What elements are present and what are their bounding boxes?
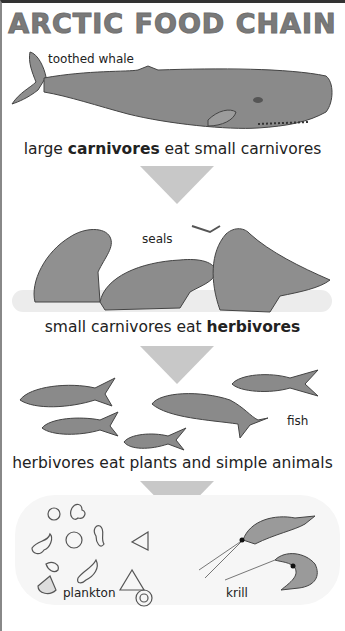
- label-seals: seals: [142, 232, 173, 246]
- page-title: ARCTIC FOOD CHAIN: [0, 8, 345, 39]
- seals-illustration: [30, 222, 340, 317]
- caption-level-2: small carnivores eat herbivores: [0, 318, 345, 336]
- caption-level-1: large carnivores eat small carnivores: [0, 140, 345, 158]
- caption-bold: carnivores: [68, 140, 160, 158]
- caption-text: large: [24, 140, 68, 158]
- label-krill: krill: [226, 586, 248, 600]
- krill-illustration: [195, 500, 335, 600]
- caption-text: eat small carnivores: [160, 140, 322, 158]
- caption-text: herbivores eat plants and simple animals: [12, 454, 332, 472]
- label-fish: fish: [287, 414, 308, 428]
- caption-text: small carnivores eat: [45, 318, 207, 336]
- label-plankton: plankton: [63, 586, 116, 600]
- label-toothed-whale: toothed whale: [48, 52, 134, 66]
- caption-bold: herbivores: [207, 318, 301, 336]
- down-arrow-1: [140, 166, 214, 204]
- caption-level-3: herbivores eat plants and simple animals: [0, 454, 345, 472]
